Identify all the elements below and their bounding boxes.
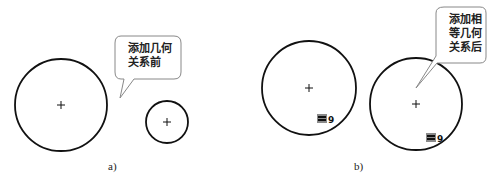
relation-index: 9 (328, 115, 334, 125)
callout-line: 关系前 (128, 56, 172, 70)
equal-relation-icon[interactable] (426, 133, 436, 142)
panel-label-b: b) (354, 160, 363, 172)
callout-line: 等几何 (449, 27, 482, 41)
equal-relation-icon[interactable] (317, 114, 327, 123)
callout-text-b: 添加相 等几何 关系后 (449, 13, 482, 55)
center-mark-icon (412, 100, 420, 108)
callout-line: 添加几何 (128, 42, 172, 56)
panel-label-a: a) (108, 160, 117, 172)
center-mark-icon (305, 84, 313, 92)
callout-text-a: 添加几何 关系前 (128, 42, 172, 70)
callout-line: 添加相 (449, 13, 482, 27)
center-mark-icon (57, 101, 65, 109)
sketch-canvas (0, 0, 496, 181)
relation-index: 9 (437, 134, 443, 144)
center-mark-icon (163, 118, 171, 126)
callout-line: 关系后 (449, 41, 482, 55)
